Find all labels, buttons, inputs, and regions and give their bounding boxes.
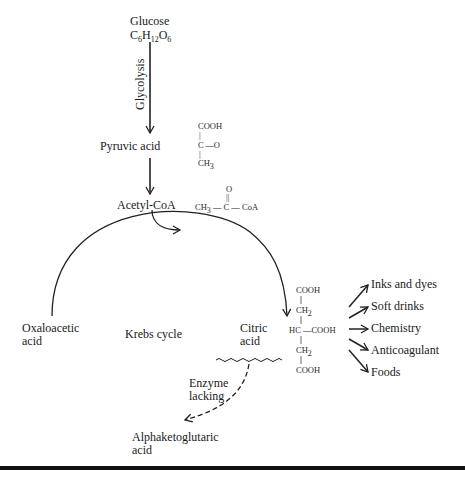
use-foods: Foods bbox=[371, 366, 400, 379]
citric-r2: CH2 bbox=[296, 306, 312, 318]
chain-text: — C — CoA bbox=[213, 202, 258, 212]
alphaketoglutaric-label-2: acid bbox=[132, 444, 152, 457]
enzyme-label-2: lacking bbox=[189, 390, 224, 403]
ch2-text: CH bbox=[296, 345, 308, 355]
formula-o-count: 6 bbox=[167, 35, 171, 44]
citric-r3: HC —COOH bbox=[289, 326, 336, 335]
ch2-sub: 2 bbox=[308, 349, 312, 358]
use-inks-and-dyes: Inks and dyes bbox=[371, 278, 437, 291]
krebs-cycle-label: Krebs cycle bbox=[125, 328, 182, 341]
ch-text: CH bbox=[198, 158, 210, 168]
ch2-text: CH bbox=[296, 305, 308, 315]
ch2-sub: 2 bbox=[308, 309, 312, 318]
arrow-anticoagulant bbox=[349, 339, 368, 350]
bottom-rule bbox=[0, 466, 465, 470]
enzyme-block-wavy bbox=[216, 359, 282, 362]
krebs-arc-to-citric bbox=[250, 232, 287, 316]
use-soft-drinks: Soft drinks bbox=[371, 300, 424, 313]
ch-sub: 3 bbox=[210, 162, 214, 171]
acetyl-structure-chain: CH3 — C — CoA bbox=[195, 203, 258, 215]
formula-h: H bbox=[142, 28, 151, 42]
oxaloacetic-label-2: acid bbox=[22, 335, 42, 348]
citric-r4: CH2 bbox=[296, 346, 312, 358]
acetyl-entry-arrow bbox=[152, 210, 180, 230]
citric-label-2: acid bbox=[240, 335, 260, 348]
formula-c: C bbox=[130, 28, 138, 42]
pyruvic-structure-bottom: CH3 bbox=[198, 159, 214, 171]
pyruvic-bond1: | bbox=[199, 131, 201, 140]
pyruvic-structure-top: COOH bbox=[198, 122, 222, 131]
citric-r1: COOH bbox=[296, 286, 320, 295]
glycolysis-label: Glycolysis bbox=[133, 59, 148, 110]
use-anticoagulant: Anticoagulant bbox=[371, 344, 439, 357]
glucose-label: Glucose bbox=[130, 15, 169, 28]
arrow-foods bbox=[349, 350, 368, 372]
ch3-sub: 3 bbox=[207, 206, 211, 215]
krebs-arc bbox=[52, 212, 250, 316]
pyruvic-structure-middle: C —O bbox=[198, 141, 220, 150]
acetyl-coa-label: Acetyl-CoA bbox=[117, 199, 176, 212]
arrow-soft-drinks bbox=[349, 307, 368, 318]
use-chemistry: Chemistry bbox=[371, 322, 421, 335]
arrow-inks bbox=[349, 285, 368, 307]
pathway-arrows bbox=[0, 0, 465, 480]
formula-h-count: 12 bbox=[151, 35, 159, 44]
acetyl-double-bond: || bbox=[226, 193, 229, 202]
citric-r5: COOH bbox=[296, 366, 320, 375]
glucose-formula: C6H12O6 bbox=[130, 29, 171, 46]
ch3-text: CH bbox=[195, 202, 207, 212]
pyruvic-acid-label: Pyruvic acid bbox=[100, 140, 160, 153]
